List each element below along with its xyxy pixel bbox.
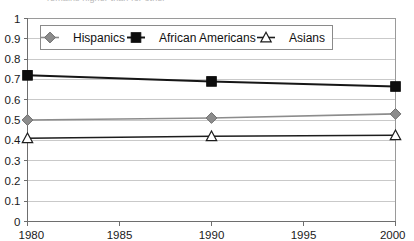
chart-canvas: 00.10.20.30.40.50.60.70.80.91 1980198519… (0, 0, 414, 241)
data-point-hispanics (22, 115, 33, 126)
y-tick-label: 0 (14, 216, 20, 228)
data-point-hispanics (206, 113, 217, 124)
series-markers (22, 71, 401, 143)
y-tick-label: 0.9 (5, 33, 21, 45)
legend-label-african-americans: African Americans (159, 31, 256, 45)
x-tick-label: 1985 (107, 229, 133, 241)
legend-marker-african-americans (131, 33, 141, 43)
data-point-hispanics (390, 109, 401, 120)
y-tick-label: 0.3 (5, 155, 21, 167)
y-tick-label: 1 (14, 13, 20, 25)
legend-label-asians: Asians (289, 31, 325, 45)
data-point-african-americans (23, 71, 33, 81)
data-point-african-americans (391, 82, 401, 92)
legend-label-hispanics: Hispanics (73, 31, 125, 45)
x-tick-label: 1980 (19, 229, 45, 241)
x-tick-label: 2000 (380, 229, 406, 241)
chart-legend: HispanicsAfrican AmericansAsians (41, 26, 333, 50)
x-axis: 19801985199019952000 (19, 222, 406, 241)
y-tick-label: 0.2 (5, 175, 21, 187)
y-tick-label: 0.1 (5, 195, 21, 207)
line-chart: 00.10.20.30.40.50.60.70.80.91 1980198519… (0, 0, 414, 241)
y-tick-label: 0.8 (5, 53, 21, 65)
x-tick-label: 1990 (199, 229, 225, 241)
x-tick-label: 1995 (291, 229, 317, 241)
data-point-african-americans (207, 77, 217, 87)
y-tick-label: 0.5 (5, 114, 21, 126)
y-tick-label: 0.7 (5, 73, 21, 85)
y-tick-label: 0.4 (5, 134, 22, 146)
y-tick-label: 0.6 (5, 94, 21, 106)
